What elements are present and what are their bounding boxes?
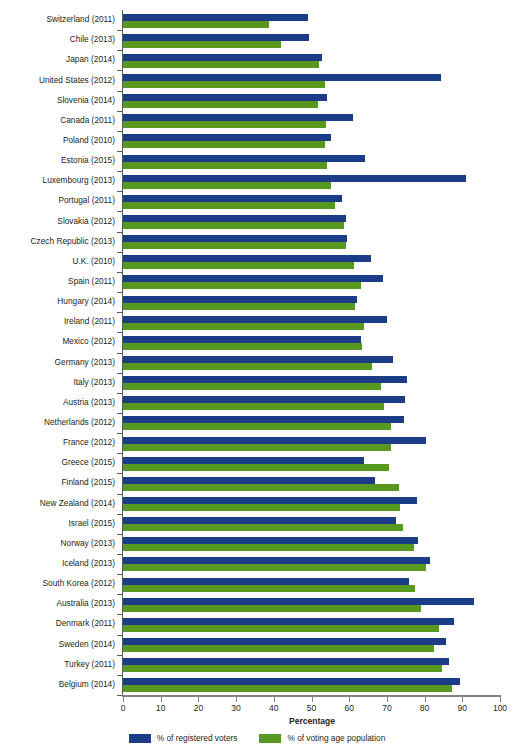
bar-voting-age-population <box>123 21 269 28</box>
y-axis-label: Belgium (2014) <box>0 679 115 689</box>
y-axis-label: Mexico (2012) <box>0 336 115 346</box>
bar-registered-voters <box>123 578 409 585</box>
x-axis-tick <box>161 697 162 702</box>
x-axis-tick <box>500 697 501 702</box>
y-axis-label: New Zealand (2014) <box>0 498 115 508</box>
y-axis-tick <box>117 332 122 333</box>
x-axis-tick-label: 80 <box>405 703 445 713</box>
y-axis-label: Finland (2015) <box>0 477 115 487</box>
y-axis-label: Germany (2013) <box>0 357 115 367</box>
bar-registered-voters <box>123 34 309 41</box>
y-axis-label: Slovenia (2014) <box>0 95 115 105</box>
plot-area <box>123 10 500 695</box>
bar-registered-voters <box>123 336 361 343</box>
y-axis-tick <box>117 191 122 192</box>
y-axis-label: United States (2012) <box>0 75 115 85</box>
bar-voting-age-population <box>123 343 362 350</box>
y-axis-label: Chile (2013) <box>0 34 115 44</box>
x-axis-tick <box>425 697 426 702</box>
bar-registered-voters <box>123 134 331 141</box>
bar-voting-age-population <box>123 625 439 632</box>
x-axis-tick <box>123 697 124 702</box>
y-axis-tick <box>117 70 122 71</box>
bar-voting-age-population <box>123 101 318 108</box>
y-axis-tick <box>117 171 122 172</box>
x-axis-tick <box>312 697 313 702</box>
bar-registered-voters <box>123 275 383 282</box>
bar-registered-voters <box>123 215 346 222</box>
bar-voting-age-population <box>123 403 384 410</box>
y-axis-label: Israel (2015) <box>0 518 115 528</box>
legend-swatch-blue <box>129 734 151 743</box>
bar-voting-age-population <box>123 242 346 249</box>
y-axis-label: Italy (2013) <box>0 377 115 387</box>
bar-voting-age-population <box>123 444 391 451</box>
bar-registered-voters <box>123 678 460 685</box>
x-axis-tick <box>387 697 388 702</box>
y-axis-tick <box>117 473 122 474</box>
legend-item-registered-voters: % of registered voters <box>129 733 238 743</box>
bar-registered-voters <box>123 74 441 81</box>
y-axis-label: Canada (2011) <box>0 115 115 125</box>
y-axis-label: Japan (2014) <box>0 54 115 64</box>
y-axis-label: Luxembourg (2013) <box>0 175 115 185</box>
bar-registered-voters <box>123 517 396 524</box>
y-axis-tick <box>117 594 122 595</box>
bar-registered-voters <box>123 195 342 202</box>
bar-registered-voters <box>123 457 364 464</box>
bar-registered-voters <box>123 658 449 665</box>
x-axis-tick <box>198 697 199 702</box>
y-axis-tick <box>117 211 122 212</box>
y-axis-tick <box>117 393 122 394</box>
y-axis-label: Spain (2011) <box>0 276 115 286</box>
y-axis-tick <box>117 91 122 92</box>
y-axis-label: Greece (2015) <box>0 457 115 467</box>
bar-registered-voters <box>123 497 417 504</box>
y-axis-tick <box>117 312 122 313</box>
x-axis-tick <box>236 697 237 702</box>
bar-voting-age-population <box>123 605 421 612</box>
y-axis-label: France (2012) <box>0 437 115 447</box>
x-axis-tick-label: 70 <box>367 703 407 713</box>
y-axis-label: South Korea (2012) <box>0 578 115 588</box>
y-axis-label: Denmark (2011) <box>0 618 115 628</box>
legend-item-voting-age-population: % of voting age population <box>259 733 385 743</box>
y-axis-tick <box>117 675 122 676</box>
x-axis-tick <box>462 697 463 702</box>
y-axis-tick <box>117 292 122 293</box>
y-axis-tick <box>117 453 122 454</box>
bar-voting-age-population <box>123 564 426 571</box>
bar-voting-age-population <box>123 222 344 229</box>
bar-registered-voters <box>123 296 357 303</box>
y-axis-label: Netherlands (2012) <box>0 417 115 427</box>
bar-registered-voters <box>123 396 405 403</box>
y-axis-label: Czech Republic (2013) <box>0 236 115 246</box>
legend-label-voting-age-population: % of voting age population <box>287 733 385 743</box>
bar-registered-voters <box>123 235 347 242</box>
x-axis-tick-label: 90 <box>442 703 482 713</box>
bar-registered-voters <box>123 638 446 645</box>
y-axis-tick <box>117 534 122 535</box>
bar-voting-age-population <box>123 202 335 209</box>
bar-registered-voters <box>123 255 371 262</box>
y-axis-tick <box>117 50 122 51</box>
bar-registered-voters <box>123 94 327 101</box>
x-axis-tick-label: 50 <box>292 703 332 713</box>
x-axis-tick-label: 10 <box>141 703 181 713</box>
chart-legend: % of registered voters % of voting age p… <box>0 733 514 743</box>
y-axis-tick <box>117 433 122 434</box>
bar-voting-age-population <box>123 665 442 672</box>
y-axis-label: U.K. (2010) <box>0 256 115 266</box>
y-axis-tick <box>117 413 122 414</box>
y-axis-tick <box>117 353 122 354</box>
y-axis-label: Portugal (2011) <box>0 195 115 205</box>
bar-voting-age-population <box>123 61 319 68</box>
bar-registered-voters <box>123 557 430 564</box>
y-axis-tick <box>117 635 122 636</box>
bar-registered-voters <box>123 175 466 182</box>
y-axis-tick <box>117 252 122 253</box>
bar-voting-age-population <box>123 504 400 511</box>
y-axis-label: Iceland (2013) <box>0 558 115 568</box>
y-axis-label: Poland (2010) <box>0 135 115 145</box>
bar-registered-voters <box>123 477 375 484</box>
